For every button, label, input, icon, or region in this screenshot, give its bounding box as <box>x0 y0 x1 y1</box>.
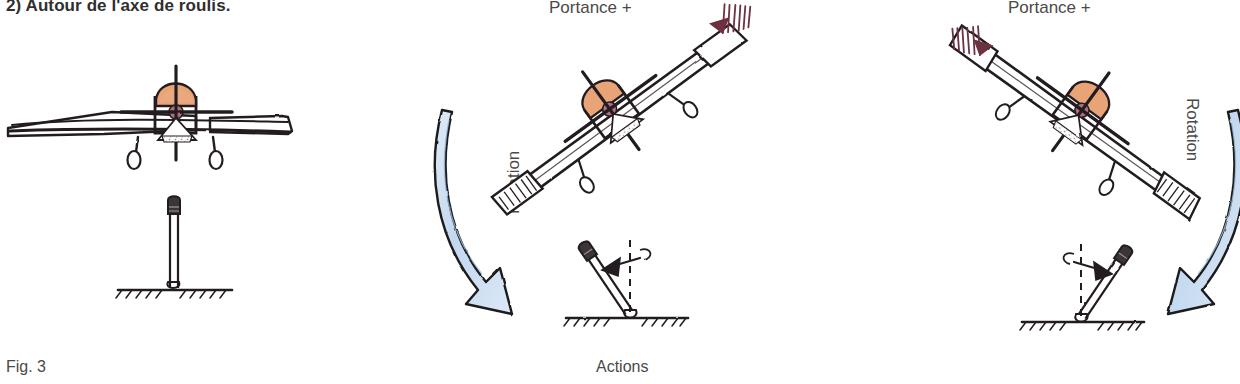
aircraft-level-front-view <box>8 66 292 169</box>
rotation-arrow-middle <box>435 110 512 314</box>
aircraft-banked-right-wing-up <box>492 0 765 241</box>
control-stick-neutral <box>116 196 232 298</box>
hand-drawn-illustration <box>0 0 1240 384</box>
aircraft-banked-left-wing-up <box>930 16 1203 245</box>
control-stick-left <box>564 240 688 326</box>
figure-canvas: 2) Autour de l'axe de roulis. Fig. 3 Act… <box>0 0 1240 384</box>
control-stick-right <box>1020 244 1144 330</box>
